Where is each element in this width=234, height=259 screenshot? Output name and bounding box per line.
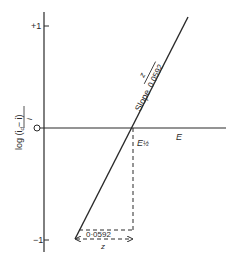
svg-text:0.0592: 0.0592: [146, 62, 165, 88]
x-axis-label: E: [176, 132, 183, 142]
origin-circle-icon: [34, 125, 40, 131]
slope-label: Slope z 0.0592: [123, 57, 165, 113]
dimension-bottom-label: z: [100, 242, 105, 251]
svg-text:log (id− i): log (id− i): [14, 114, 25, 150]
svg-text:Slope: Slope: [133, 88, 152, 113]
dimension-top-label: 0·0592: [86, 230, 111, 239]
polarographic-wave-diagram: +1 −1 log (id− i) i E Slope z 0.0592 E½ …: [0, 0, 234, 259]
svg-text:z: z: [137, 71, 147, 80]
half-wave-potential-label: E½: [137, 138, 149, 148]
y-axis-label: log (id− i) i: [14, 106, 34, 150]
tick-label-plus-one: +1: [31, 21, 41, 31]
tick-label-minus-one: −1: [33, 235, 43, 245]
svg-text:i: i: [25, 118, 34, 120]
